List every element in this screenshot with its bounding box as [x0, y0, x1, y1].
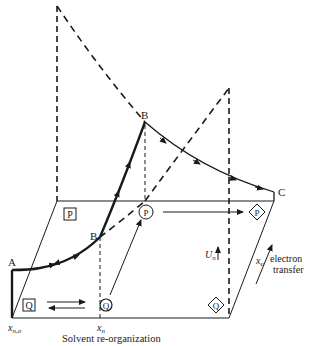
plane-right-edge: [229, 201, 274, 318]
electron-label: electron: [270, 253, 302, 264]
solvent-reorganization-label: Solvent re-organization: [62, 333, 161, 344]
label-b-lower: B: [90, 230, 97, 242]
label-un: Un: [205, 249, 216, 262]
label-b-upper: B: [141, 109, 148, 121]
label-a: A: [8, 256, 16, 268]
upper-left-dashed-curve: [57, 6, 145, 122]
svg-text:P: P: [67, 209, 73, 220]
q-circle-state: Q: [100, 299, 112, 311]
svg-text:Q: Q: [25, 300, 33, 311]
q-diamond-state: Q: [208, 297, 224, 313]
label-c: C: [278, 186, 285, 198]
label-xn0: xn,o: [7, 322, 22, 335]
svg-text:Q: Q: [103, 301, 110, 311]
arrow-q-to-p: [110, 220, 141, 295]
path-a-to-b: [12, 237, 100, 270]
label-xe: xe: [255, 255, 264, 268]
reaction-coordinate-diagram: P Q P Q P Q A B B C xn,o xn Solvent re-o…: [0, 0, 311, 346]
transfer-label: transfer: [273, 264, 304, 275]
svg-text:P: P: [143, 208, 148, 218]
p-diamond-state: P: [249, 204, 265, 220]
diagonal-dashed-curve: [145, 88, 229, 201]
q-square-state: Q: [23, 299, 35, 311]
dashed-curves: [57, 6, 229, 237]
reaction-path: [12, 122, 274, 318]
svg-text:P: P: [254, 208, 259, 218]
svg-text:Q: Q: [213, 301, 220, 311]
p-circle-state: P: [139, 205, 153, 219]
p-square-state: P: [64, 208, 76, 220]
path-b-to-c: [145, 122, 274, 192]
